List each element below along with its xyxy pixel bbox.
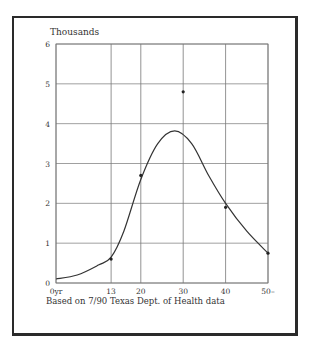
y-tick-label: 2 — [45, 199, 50, 208]
y-tick-label: 3 — [45, 160, 50, 169]
chart: 0123456 0yr1320304050– Thousands Based o… — [0, 0, 313, 350]
x-tick-label: 20 — [136, 287, 146, 296]
x-tick-label: 13 — [106, 287, 116, 296]
grid — [56, 44, 268, 283]
y-tick-label: 4 — [45, 120, 50, 129]
x-tick-label: 0yr — [50, 287, 63, 296]
x-tick-label: 50– — [261, 287, 275, 296]
data-points — [110, 90, 270, 261]
y-tick-label: 6 — [45, 40, 50, 49]
data-point — [182, 90, 185, 93]
data-point — [139, 174, 142, 177]
y-axis-unit-label: Thousands — [50, 27, 100, 37]
x-tick-label: 40 — [221, 287, 231, 296]
x-axis-labels: 0yr1320304050– — [50, 287, 275, 296]
data-point — [224, 206, 227, 209]
data-point — [110, 258, 113, 261]
curve-line — [56, 131, 268, 279]
x-tick-label: 30 — [178, 287, 188, 296]
footnote: Based on 7/90 Texas Dept. of Health data — [46, 296, 225, 306]
y-tick-label: 5 — [45, 80, 50, 89]
y-axis-labels: 0123456 — [45, 40, 50, 288]
data-curve — [56, 131, 268, 279]
y-tick-label: 1 — [45, 239, 50, 248]
data-point — [266, 252, 269, 255]
